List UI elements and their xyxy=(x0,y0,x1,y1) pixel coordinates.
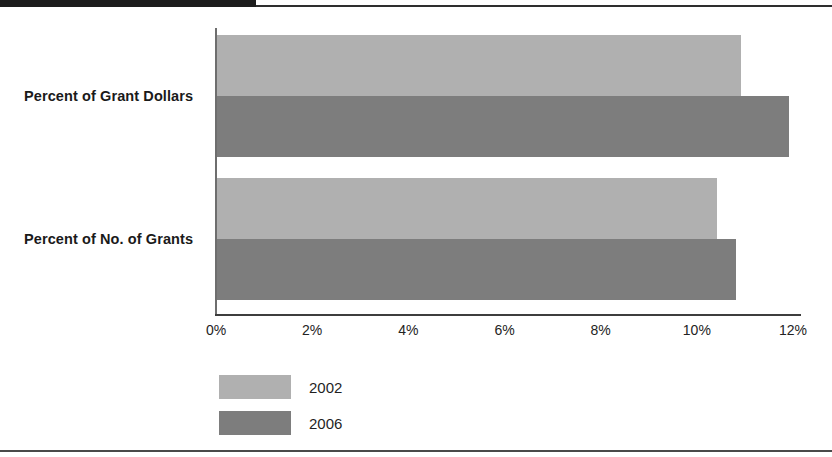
x-tick-12pct: 12% xyxy=(763,322,823,338)
x-tick-0pct: 0% xyxy=(186,322,246,338)
bar-2006-2 xyxy=(217,239,736,300)
category-label-1: Percent of Grant Dollars xyxy=(24,88,210,104)
legend-label-2006: 2006 xyxy=(309,415,342,432)
x-tick-2pct: 2% xyxy=(282,322,342,338)
bar-2002-2 xyxy=(217,178,717,239)
legend-item: 2006 xyxy=(219,410,342,436)
x-tick-6pct: 6% xyxy=(475,322,535,338)
bar-chart: Percent of Grant DollarsPercent of No. o… xyxy=(0,0,832,457)
x-tick-8pct: 8% xyxy=(571,322,631,338)
legend-item: 2002 xyxy=(219,374,342,400)
chart-legend: 2002 2006 xyxy=(219,374,342,446)
legend-label-2002: 2002 xyxy=(309,379,342,396)
category-label-2: Percent of No. of Grants xyxy=(24,231,210,247)
legend-swatch-2006 xyxy=(219,411,291,435)
x-axis-line xyxy=(215,314,801,316)
x-tick-10pct: 10% xyxy=(667,322,727,338)
x-tick-4pct: 4% xyxy=(378,322,438,338)
bar-2006-1 xyxy=(217,96,789,157)
bar-2002-1 xyxy=(217,35,741,96)
legend-swatch-2002 xyxy=(219,375,291,399)
